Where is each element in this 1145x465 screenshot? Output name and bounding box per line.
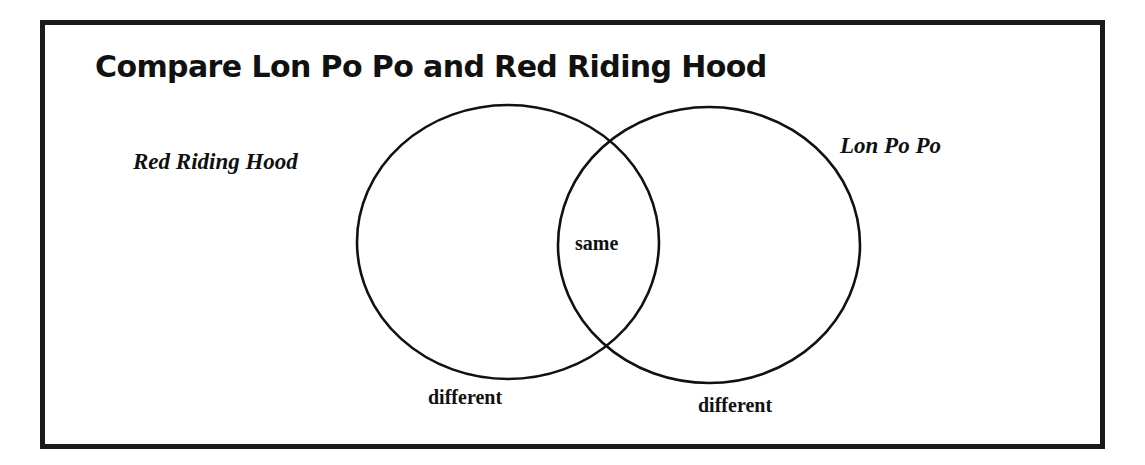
intersection-label: same: [575, 233, 618, 253]
region-label-left-different: different: [428, 387, 502, 407]
set-label-red-riding-hood: Red Riding Hood: [133, 150, 298, 173]
venn-diagram: [0, 0, 1145, 465]
set-label-lon-po-po: Lon Po Po: [840, 134, 941, 157]
region-label-right-different: different: [698, 395, 772, 415]
